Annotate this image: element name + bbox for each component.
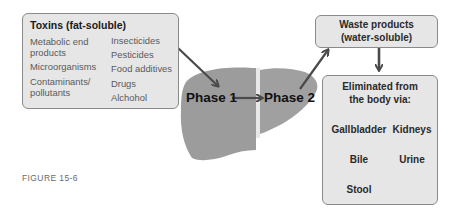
toxins-column-1: Metabolic end products Microorganisms Co… — [30, 36, 110, 101]
toxin-item: Insecticides — [111, 34, 179, 48]
toxin-item: Metabolic end products — [30, 36, 110, 58]
waste-line-1: Waste products — [316, 19, 437, 32]
figure-caption: FIGURE 15-6 — [22, 173, 78, 183]
toxin-item: Pesticides — [111, 48, 179, 62]
toxins-column-2: Insecticides Pesticides Food additives D… — [111, 34, 179, 105]
toxin-item: Alchohol — [111, 91, 179, 105]
node-bile: Bile — [327, 154, 391, 165]
toxins-box: Toxins (fat-soluble) Metabolic end produ… — [22, 13, 179, 109]
node-gallbladder: Gallbladder — [327, 124, 391, 135]
eliminated-line-1: Eliminated from — [323, 81, 437, 94]
waste-products-label: Waste products (water-soluble) — [316, 16, 437, 44]
eliminated-box: Eliminated from the body via: Gallbladde… — [322, 75, 438, 205]
toxin-item: Food additives — [111, 62, 179, 76]
toxin-item: Drugs — [111, 77, 179, 91]
eliminated-heading: Eliminated from the body via: — [323, 81, 437, 106]
toxins-title: Toxins (fat-soluble) — [30, 19, 126, 31]
phase-1-label: Phase 1 — [186, 90, 237, 105]
node-stool: Stool — [327, 184, 391, 195]
node-kidneys: Kidneys — [385, 124, 439, 135]
toxin-item: Contaminants/ pollutants — [30, 76, 110, 98]
waste-line-2: (water-soluble) — [316, 32, 437, 45]
waste-products-box: Waste products (water-soluble) — [315, 15, 438, 48]
phase-2-label: Phase 2 — [264, 90, 315, 105]
node-urine: Urine — [385, 154, 439, 165]
eliminated-line-2: the body via: — [323, 94, 437, 107]
toxin-item: Microorganisms — [30, 61, 110, 72]
liver-illustration — [181, 68, 318, 161]
